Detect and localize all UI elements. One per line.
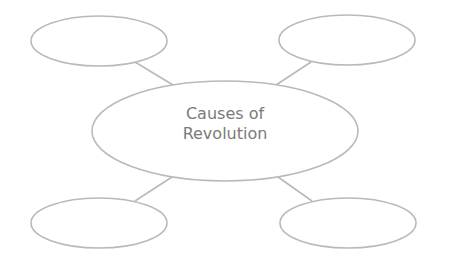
branch-node-top-right[interactable]: [279, 15, 415, 65]
center-node-label: Causes of Revolution: [92, 104, 358, 144]
center-label-line-1: Causes of: [92, 104, 358, 124]
branch-node-bottom-left[interactable]: [31, 198, 167, 248]
branch-node-bottom-right[interactable]: [280, 198, 416, 248]
connector-bottom-right: [278, 177, 312, 201]
branch-node-top-left[interactable]: [31, 16, 167, 66]
connector-top-right: [276, 62, 311, 85]
mind-map-diagram: Causes of Revolution: [0, 0, 450, 265]
center-label-line-2: Revolution: [92, 124, 358, 144]
connector-bottom-left: [135, 177, 172, 201]
connector-top-left: [135, 62, 173, 85]
